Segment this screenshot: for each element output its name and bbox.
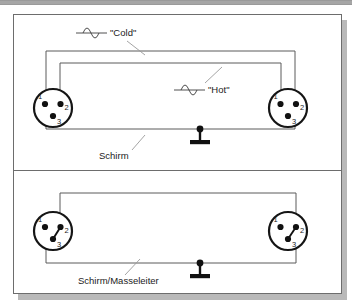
panel-unbalanced-cable: 1 2 3 1 2 3 Schirm/Masseleiter [13,170,342,294]
top-rule [0,0,352,5]
shield-ground-leader-line [125,259,140,275]
pin-3-contact [285,113,291,119]
panel-balanced-cable: 1 2 3 1 2 3 "Cold" [13,14,342,171]
top-rule-inner [0,1,352,4]
shield-annotation: Schirm [99,135,145,161]
pin-1-contact [42,101,48,107]
cold-label: "Cold" [110,27,136,38]
pin-2-label: 2 [300,226,304,235]
pin-3-contact [50,236,56,242]
pin-2-contact [57,224,63,230]
sine-wave-icon [174,85,205,95]
pin-2-label: 2 [300,103,304,112]
pin-3-label: 3 [57,117,61,126]
signal-wire [60,193,296,220]
shield-leader-line [132,135,145,150]
pin-3-label: 3 [57,240,61,249]
ground-icon [190,260,210,279]
xlr-connector-right: 1 2 3 [269,212,307,250]
pin-3-label: 3 [292,117,296,126]
pin-2-contact [293,224,299,230]
hot-leader-line [205,67,222,83]
diagram-root: 1 2 3 1 2 3 "Cold" [0,0,352,307]
balanced-cable-diagram: 1 2 3 1 2 3 "Cold" [14,15,343,172]
pin-1-contact [277,224,283,230]
cold-leader-line [127,41,145,55]
pin-2-contact [57,101,63,107]
pin-1-label: 1 [38,215,42,224]
pin-1-contact [277,101,283,107]
ground-icon [190,126,210,145]
pin-2-label: 2 [64,226,68,235]
hot-annotation: "Hot" [174,67,230,95]
xlr-connector-right: 1 2 3 [269,89,307,127]
shield-ground-wire [46,242,296,263]
pin-2-contact [293,101,299,107]
pin-3-contact [285,236,291,242]
pin-1-label: 1 [273,215,277,224]
ground-bar [190,140,210,144]
shield-label: Schirm [99,150,129,161]
xlr-connector-left: 1 2 3 [34,89,72,127]
hot-wire [60,63,281,97]
pin-1-contact [42,224,48,230]
pin-3-label: 3 [292,240,296,249]
sine-wave-icon [76,28,107,38]
pin-1-label: 1 [273,92,277,101]
shield-wire [46,119,295,129]
pin-3-contact [50,113,56,119]
xlr-connector-left: 1 2 3 [34,212,72,250]
hot-label: "Hot" [208,84,230,95]
ground-bar [190,274,210,278]
shield-ground-label: Schirm/Masseleiter [78,275,159,286]
pin-1-label: 1 [38,92,42,101]
pin-2-label: 2 [64,103,68,112]
cold-wire [46,51,295,97]
unbalanced-cable-diagram: 1 2 3 1 2 3 Schirm/Masseleiter [14,171,343,295]
